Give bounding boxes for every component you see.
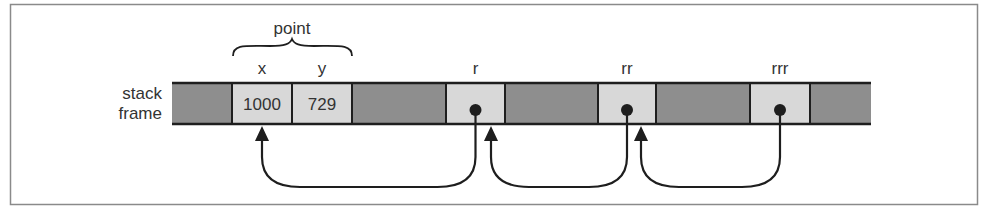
cell-filler-9 — [810, 83, 871, 124]
row-label-line2: frame — [119, 104, 162, 123]
group-brace — [233, 39, 352, 56]
cell-label-rrr: rrr — [772, 59, 789, 78]
arrowhead-icon — [255, 126, 269, 141]
cell-value-y: 729 — [308, 95, 336, 114]
cell-filler-0 — [172, 83, 232, 124]
group-label-point: point — [274, 19, 311, 38]
cell-label-y: y — [318, 59, 327, 78]
cell-filler-7 — [656, 83, 750, 124]
stack-frame-diagram: stack frame point x1000y729rrrrrr — [0, 0, 985, 213]
cell-label-rr: rr — [621, 59, 633, 78]
row-label-line1: stack — [122, 84, 162, 103]
arrowhead-icon — [634, 126, 648, 141]
arrowhead-icon — [484, 126, 498, 141]
cell-label-x: x — [258, 59, 267, 78]
cell-filler-5 — [505, 83, 598, 124]
cell-filler-3 — [352, 83, 446, 124]
cell-value-x: 1000 — [243, 95, 281, 114]
cell-label-r: r — [473, 59, 479, 78]
